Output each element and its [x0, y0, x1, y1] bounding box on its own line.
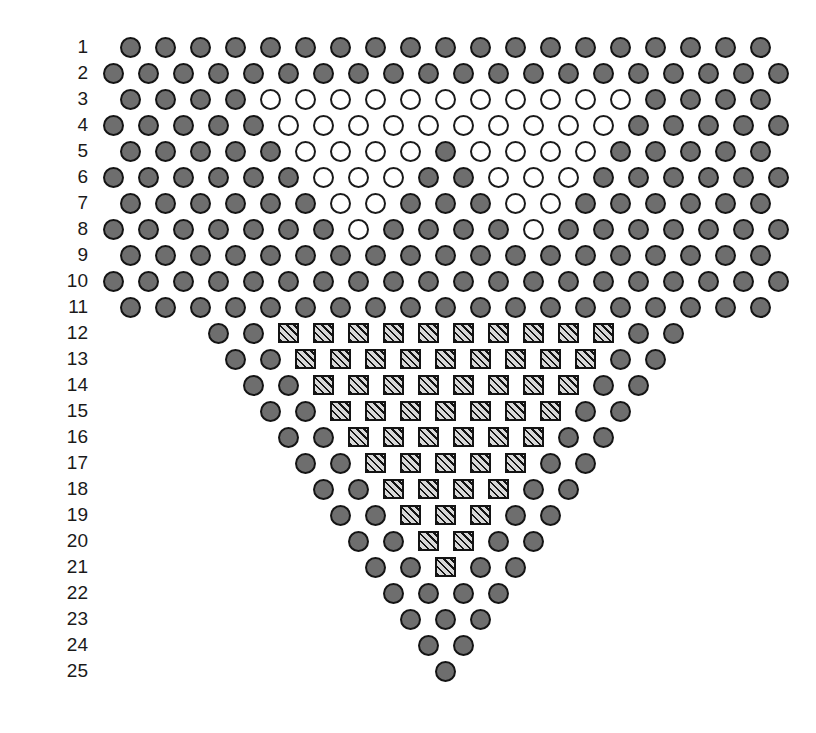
cell — [663, 112, 698, 138]
filled-circle-marker — [715, 297, 736, 318]
cell — [453, 320, 488, 346]
cell — [313, 60, 348, 86]
cell — [540, 398, 575, 424]
filled-circle-marker — [680, 141, 701, 162]
cell — [330, 34, 365, 60]
filled-circle-marker — [558, 479, 579, 500]
cell — [470, 346, 505, 372]
filled-circle-marker — [120, 297, 141, 318]
cell — [330, 138, 365, 164]
cell — [680, 294, 715, 320]
filled-circle-marker — [505, 37, 526, 58]
filled-circle-marker — [383, 63, 404, 84]
open-circle-marker — [505, 193, 526, 214]
cell — [523, 216, 558, 242]
filled-circle-marker — [313, 63, 334, 84]
open-circle-marker — [453, 115, 474, 136]
cell — [400, 554, 435, 580]
cell — [645, 190, 680, 216]
cell — [768, 112, 803, 138]
cell — [208, 216, 243, 242]
hatched-square-marker — [558, 323, 579, 343]
filled-circle-marker — [190, 141, 211, 162]
cell — [523, 424, 558, 450]
hatched-square-marker — [505, 453, 526, 473]
filled-circle-marker — [278, 167, 299, 188]
cell — [750, 34, 785, 60]
filled-circle-marker — [750, 193, 771, 214]
cell — [610, 346, 645, 372]
cell — [470, 606, 505, 632]
cell — [435, 294, 470, 320]
open-circle-marker — [295, 141, 316, 162]
open-circle-marker — [505, 89, 526, 110]
cell — [540, 502, 575, 528]
filled-circle-marker — [173, 167, 194, 188]
hatched-square-marker — [470, 401, 491, 421]
cell — [190, 294, 225, 320]
open-circle-marker — [348, 115, 369, 136]
cell — [628, 60, 663, 86]
cell — [225, 86, 260, 112]
symbol-row — [383, 580, 523, 606]
cell — [435, 34, 470, 60]
cell — [453, 268, 488, 294]
cell — [348, 372, 383, 398]
cell — [383, 60, 418, 86]
cell — [208, 268, 243, 294]
cell — [715, 190, 750, 216]
filled-circle-marker — [593, 63, 614, 84]
cell — [190, 242, 225, 268]
cell — [295, 450, 330, 476]
cell — [470, 450, 505, 476]
cell — [330, 190, 365, 216]
open-circle-marker — [330, 193, 351, 214]
filled-circle-marker — [540, 453, 561, 474]
cell — [103, 164, 138, 190]
cell — [155, 242, 190, 268]
row-label-14: 14 — [28, 372, 88, 398]
filled-circle-marker — [313, 427, 334, 448]
cell — [435, 138, 470, 164]
cell — [400, 190, 435, 216]
hatched-square-marker — [488, 323, 509, 343]
filled-circle-marker — [663, 63, 684, 84]
cell — [155, 190, 190, 216]
cell — [435, 606, 470, 632]
hatched-square-marker — [488, 427, 509, 447]
open-circle-marker — [540, 141, 561, 162]
filled-circle-marker — [628, 167, 649, 188]
filled-circle-marker — [750, 37, 771, 58]
cell — [610, 398, 645, 424]
filled-circle-marker — [680, 245, 701, 266]
filled-circle-marker — [348, 531, 369, 552]
filled-circle-marker — [208, 63, 229, 84]
cell — [540, 34, 575, 60]
cell — [418, 320, 453, 346]
open-circle-marker — [313, 115, 334, 136]
cell — [715, 294, 750, 320]
filled-circle-marker — [715, 141, 736, 162]
cell — [383, 528, 418, 554]
cell — [593, 60, 628, 86]
filled-circle-marker — [190, 297, 211, 318]
symbol-row — [103, 60, 803, 86]
cell — [663, 216, 698, 242]
cell — [523, 268, 558, 294]
cell — [663, 320, 698, 346]
filled-circle-marker — [208, 271, 229, 292]
filled-circle-marker — [488, 531, 509, 552]
filled-circle-marker — [243, 219, 264, 240]
cell — [383, 268, 418, 294]
filled-circle-marker — [540, 245, 561, 266]
filled-circle-marker — [645, 141, 666, 162]
filled-circle-marker — [138, 219, 159, 240]
filled-circle-marker — [295, 401, 316, 422]
filled-circle-marker — [453, 219, 474, 240]
row-label-1: 1 — [28, 34, 88, 60]
filled-circle-marker — [470, 37, 491, 58]
cell — [103, 60, 138, 86]
filled-circle-marker — [575, 193, 596, 214]
cell — [453, 580, 488, 606]
filled-circle-marker — [103, 167, 124, 188]
